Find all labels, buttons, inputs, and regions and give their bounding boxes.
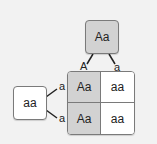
punnett-cell-0-0: Aa [68, 72, 101, 103]
cell-genotype: aa [111, 80, 124, 94]
parent-left-genotype: aa [23, 96, 36, 110]
allele-label-left-1: a [59, 113, 65, 124]
cell-genotype: Aa [77, 112, 92, 126]
punnett-cell-1-1: aa [101, 103, 134, 134]
punnett-square: Aa aa Aa aa [67, 71, 135, 135]
punnett-cell-1-0: Aa [68, 103, 101, 134]
parent-top-genotype: Aa [95, 30, 110, 44]
parent-left-box: aa [13, 86, 47, 120]
cell-genotype: Aa [77, 80, 92, 94]
allele-label-left-0: a [59, 81, 65, 92]
punnett-cell-0-1: aa [101, 72, 134, 103]
parent-top-box: Aa [85, 20, 119, 54]
cell-genotype: aa [111, 112, 124, 126]
